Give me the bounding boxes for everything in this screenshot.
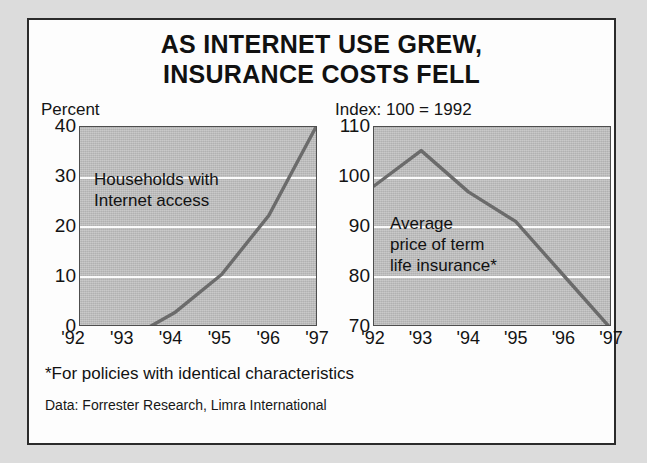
title-line-1: AS INTERNET USE GREW, (161, 30, 483, 58)
right-y-axis-labels: 110 100 90 80 70 (335, 126, 373, 326)
left-plot-wrap: 40 30 20 10 0 (41, 126, 317, 326)
left-xtick-94: '94 (159, 328, 182, 349)
left-annotation-line-1: Households with (94, 169, 219, 190)
right-xtick-97: '97 (599, 328, 622, 349)
right-xtick-92: '92 (361, 328, 384, 349)
chart-canvas: AS INTERNET USE GREW, INSURANCE COSTS FE… (29, 20, 614, 443)
left-x-axis-labels: '92 '93 '94 '95 '96 '97 (73, 328, 317, 354)
left-series-line (80, 127, 316, 326)
right-xtick-95: '95 (504, 328, 527, 349)
left-ytick-40: 40 (55, 115, 76, 137)
right-annotation-line-3: life insurance* (390, 255, 497, 276)
right-xtick-93: '93 (409, 328, 432, 349)
right-annotation-line-1: Average (390, 213, 497, 234)
left-xtick-95: '95 (208, 328, 231, 349)
source-text: Data: Forrester Research, Limra Internat… (45, 397, 327, 413)
right-ytick-80: 80 (349, 265, 370, 287)
left-plot-area: Households with Internet access (79, 126, 317, 326)
right-xtick-96: '96 (552, 328, 575, 349)
chart-page: AS INTERNET USE GREW, INSURANCE COSTS FE… (0, 0, 647, 463)
left-series-annotation: Households with Internet access (94, 169, 219, 211)
chart-frame: AS INTERNET USE GREW, INSURANCE COSTS FE… (27, 18, 616, 445)
right-ytick-110: 110 (340, 115, 370, 137)
right-xtick-94: '94 (456, 328, 479, 349)
footnote-text: *For policies with identical characteris… (45, 364, 354, 384)
right-ytick-90: 90 (349, 215, 370, 237)
left-ytick-10: 10 (55, 265, 76, 287)
left-y-axis-labels: 40 30 20 10 0 (41, 126, 79, 326)
page-title: AS INTERNET USE GREW, INSURANCE COSTS FE… (29, 29, 614, 89)
right-annotation-line-2: price of term (390, 234, 497, 255)
left-xtick-97: '97 (305, 328, 328, 349)
title-line-2: INSURANCE COSTS FELL (29, 59, 614, 89)
right-x-axis-labels: '92 '93 '94 '95 '96 '97 (373, 328, 611, 354)
right-plot-wrap: 110 100 90 80 70 (335, 126, 611, 326)
left-ytick-20: 20 (55, 215, 76, 237)
left-xtick-96: '96 (256, 328, 279, 349)
right-ytick-100: 100 (338, 165, 370, 187)
left-ytick-30: 30 (55, 165, 76, 187)
left-annotation-line-2: Internet access (94, 190, 219, 211)
left-xtick-93: '93 (110, 328, 133, 349)
right-plot-area: Average price of term life insurance* (373, 126, 611, 326)
right-series-annotation: Average price of term life insurance* (390, 213, 497, 276)
left-xtick-92: '92 (61, 328, 84, 349)
